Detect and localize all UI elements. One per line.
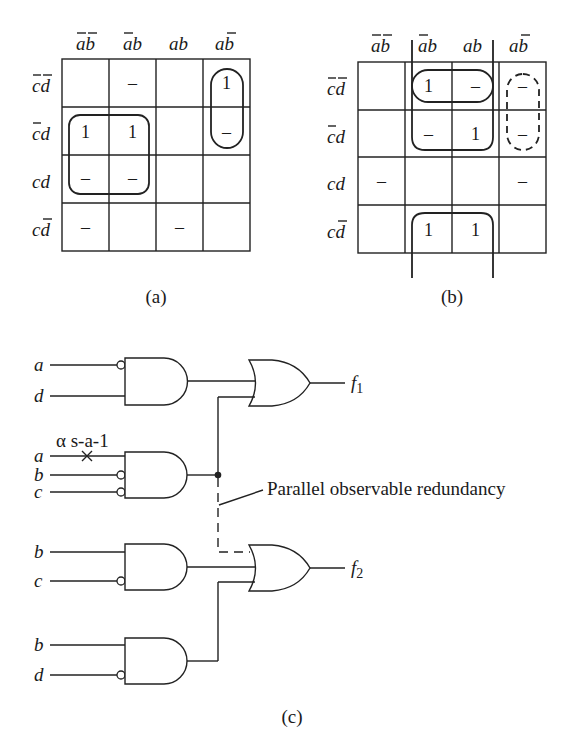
and-gate-2: α s-a-1 a b c — [34, 430, 187, 502]
and-gate-body — [125, 358, 187, 405]
cell: 1 — [128, 122, 137, 142]
col-header-a-bbar: ab — [509, 35, 528, 56]
kmap-b: ab ab ab ab cd cd cd cd 1 – – – 1 — [327, 35, 546, 308]
kmap-a-col-headers: ab ab ab ab — [76, 33, 236, 54]
inversion-bubble — [117, 488, 125, 496]
caption-c: (c) — [281, 706, 302, 728]
row-header-cbar-d: cd — [32, 123, 50, 144]
and-gate-3: b c — [34, 541, 187, 591]
kmap-a-row-headers: cd cd cd cd — [32, 75, 52, 240]
cell: – — [423, 124, 434, 144]
and-gate-1: a d — [34, 354, 187, 406]
and-gate-body — [125, 544, 187, 590]
circuit: a d f1 α s-a-1 a b c — [34, 354, 506, 728]
cell: – — [174, 217, 185, 237]
row-header-c-dbar: cd — [327, 221, 345, 242]
junction-dot — [215, 472, 222, 479]
row-header-cbar-dbar: cd — [327, 78, 345, 99]
cell: – — [517, 171, 528, 191]
col-header-a-b: ab — [463, 35, 482, 56]
kmap-b-col-headers: ab ab ab ab — [371, 35, 530, 56]
and-gate-4: b d — [34, 634, 187, 685]
input-label-b: b — [34, 541, 44, 562]
cell: – — [470, 76, 481, 96]
redundancy-dashed-path — [218, 478, 250, 552]
annotation-leader — [219, 490, 263, 505]
cell: 1 — [471, 124, 480, 144]
input-label-d: d — [34, 664, 44, 685]
row-header-c-d: cd — [32, 171, 50, 192]
kmap-b-row-headers: cd cd cd cd — [327, 78, 347, 242]
input-label-c: c — [34, 481, 43, 502]
col-header-a-bbar: ab — [215, 33, 234, 54]
annotation-text: Parallel observable redundancy — [267, 478, 506, 499]
cell: 1 — [471, 220, 480, 240]
row-header-cbar-d: cd — [327, 126, 345, 147]
cell: 1 — [81, 122, 90, 142]
input-label-a: a — [34, 354, 44, 375]
inversion-bubble — [117, 361, 125, 369]
cell: – — [80, 217, 91, 237]
or-gate-2 — [249, 545, 310, 591]
input-label-a: a — [34, 445, 44, 466]
cell: – — [376, 171, 387, 191]
col-header-abar-bbar: ab — [371, 35, 390, 56]
col-header-abar-bbar: ab — [76, 33, 95, 54]
cell: 1 — [222, 73, 231, 93]
row-header-c-dbar: cd — [32, 219, 50, 240]
row-header-cbar-dbar: cd — [32, 75, 50, 96]
cell: – — [127, 73, 138, 93]
inversion-bubble — [117, 471, 125, 479]
output-f1: f1 — [351, 372, 363, 396]
row-header-c-d: cd — [327, 173, 345, 194]
cell: 1 — [424, 76, 433, 96]
inversion-bubble — [117, 577, 125, 585]
fault-label: α s-a-1 — [56, 430, 109, 451]
col-header-abar-b: ab — [418, 35, 437, 56]
input-label-d: d — [34, 385, 44, 406]
col-header-abar-b: ab — [123, 33, 142, 54]
cell: – — [517, 76, 528, 96]
output-f2: f2 — [351, 557, 363, 581]
or-gate-1 — [249, 360, 310, 406]
input-label-b: b — [34, 634, 44, 655]
kmap-a: ab ab ab ab cd cd cd cd – 1 1 1 — [32, 33, 250, 308]
cell: – — [127, 168, 138, 188]
col-header-a-b: ab — [169, 33, 188, 54]
and-gate-body — [125, 452, 187, 498]
caption-a: (a) — [145, 286, 166, 308]
and-gate-body — [125, 638, 187, 684]
cell: – — [517, 124, 528, 144]
inversion-bubble — [117, 671, 125, 679]
cell: – — [221, 122, 232, 142]
cell: – — [80, 168, 91, 188]
figure-canvas: ab ab ab ab cd cd cd cd – 1 1 1 — [0, 0, 577, 744]
input-label-c: c — [34, 570, 43, 591]
cell: 1 — [424, 220, 433, 240]
caption-b: (b) — [441, 286, 463, 308]
